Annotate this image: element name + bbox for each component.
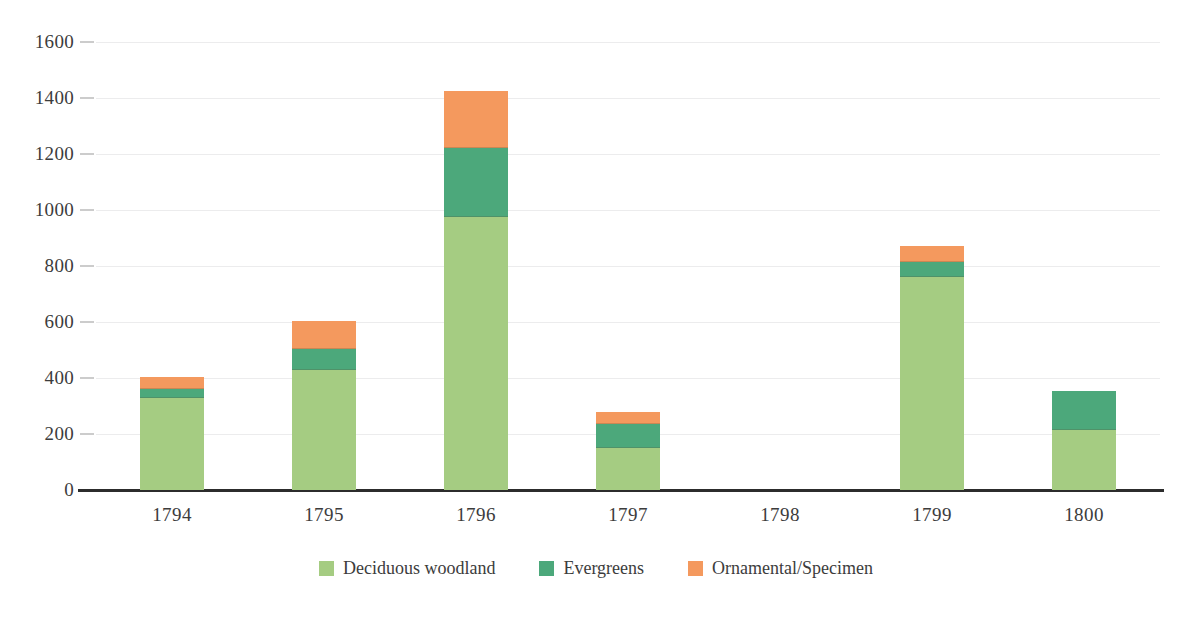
- y-axis-label: 1200: [0, 143, 74, 165]
- y-axis-label: 1000: [0, 199, 74, 221]
- x-axis-label: 1799: [872, 504, 992, 526]
- bar-group[interactable]: [292, 42, 356, 490]
- legend-swatch-icon: [539, 561, 554, 576]
- y-axis-label: 400: [0, 367, 74, 389]
- bar-segment[interactable]: [596, 412, 660, 425]
- bar-segment[interactable]: [292, 349, 356, 370]
- bar-stack[interactable]: [596, 412, 660, 490]
- bar-stack[interactable]: [140, 377, 204, 490]
- x-axis-label: 1794: [112, 504, 232, 526]
- legend-item[interactable]: Ornamental/Specimen: [688, 558, 873, 579]
- y-axis-tick: [80, 154, 94, 155]
- x-axis-label: 1797: [568, 504, 688, 526]
- bar-segment[interactable]: [596, 448, 660, 490]
- legend-label: Deciduous woodland: [343, 558, 495, 579]
- bar-segment[interactable]: [292, 321, 356, 349]
- bar-group[interactable]: [1052, 42, 1116, 490]
- bar-segment[interactable]: [1052, 430, 1116, 490]
- y-axis-tick: [80, 434, 94, 435]
- x-axis-label: 1796: [416, 504, 536, 526]
- y-axis-label: 0: [0, 479, 74, 501]
- y-axis-tick: [80, 378, 94, 379]
- bar-segment[interactable]: [140, 398, 204, 490]
- y-axis-tick: [80, 42, 94, 43]
- y-axis-label: 1600: [0, 31, 74, 53]
- bar-segment[interactable]: [444, 217, 508, 490]
- bar-group[interactable]: [748, 42, 812, 490]
- legend-swatch-icon: [688, 561, 703, 576]
- y-axis-tick: [80, 322, 94, 323]
- x-axis-label: 1798: [720, 504, 840, 526]
- legend-swatch-icon: [319, 561, 334, 576]
- bar-segment[interactable]: [1052, 391, 1116, 430]
- y-axis-tick: [80, 210, 94, 211]
- bar-segment[interactable]: [900, 277, 964, 490]
- chart-legend: Deciduous woodlandEvergreensOrnamental/S…: [0, 558, 1192, 579]
- x-axis-label: 1795: [264, 504, 384, 526]
- bar-segment[interactable]: [292, 370, 356, 490]
- bar-group[interactable]: [444, 42, 508, 490]
- y-axis-tick: [80, 266, 94, 267]
- x-axis-label: 1800: [1024, 504, 1144, 526]
- legend-label: Evergreens: [563, 558, 644, 579]
- bar-group[interactable]: [900, 42, 964, 490]
- bar-stack[interactable]: [292, 321, 356, 490]
- bar-segment[interactable]: [900, 262, 964, 277]
- bar-segment[interactable]: [140, 377, 204, 390]
- y-axis-label: 1400: [0, 87, 74, 109]
- legend-label: Ornamental/Specimen: [712, 558, 873, 579]
- plot-area: [96, 42, 1160, 490]
- y-axis-tick: [80, 98, 94, 99]
- bar-segment[interactable]: [444, 91, 508, 148]
- y-axis-label: 200: [0, 423, 74, 445]
- y-axis-label: 600: [0, 311, 74, 333]
- legend-item[interactable]: Deciduous woodland: [319, 558, 495, 579]
- bar-segment[interactable]: [140, 389, 204, 397]
- bar-segment[interactable]: [900, 246, 964, 261]
- bar-group[interactable]: [140, 42, 204, 490]
- bar-group[interactable]: [596, 42, 660, 490]
- bar-stack[interactable]: [900, 246, 964, 490]
- bar-segment[interactable]: [596, 424, 660, 448]
- legend-item[interactable]: Evergreens: [539, 558, 644, 579]
- bar-stack[interactable]: [444, 91, 508, 490]
- y-axis-label: 800: [0, 255, 74, 277]
- bar-stack[interactable]: [1052, 391, 1116, 490]
- stacked-bar-chart: 02004006008001000120014001600 1794179517…: [0, 0, 1192, 618]
- bar-segment[interactable]: [444, 148, 508, 217]
